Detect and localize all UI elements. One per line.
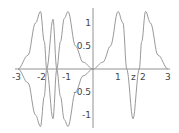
svg-text:-2: -2 [37, 72, 46, 82]
svg-text:-3: -3 [12, 72, 21, 82]
svg-text:1: 1 [115, 72, 121, 82]
chart: -3-2-112310.5-0.5-1 z [0, 0, 179, 133]
svg-text:-1: -1 [82, 110, 91, 120]
svg-text:-1: -1 [62, 72, 71, 82]
svg-text:2: 2 [140, 72, 146, 82]
x-axis-label: z [131, 72, 136, 82]
svg-text:1: 1 [85, 18, 91, 28]
svg-text:3: 3 [165, 72, 171, 82]
svg-text:0.5: 0.5 [77, 41, 91, 51]
